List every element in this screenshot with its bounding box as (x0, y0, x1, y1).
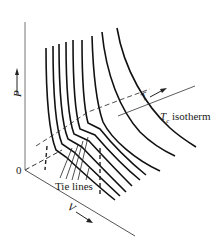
t-axis-dashed (25, 150, 62, 170)
isotherm-9 (117, 28, 196, 147)
tc-rest: isotherm (169, 110, 210, 122)
tie-pointer-1 (60, 148, 72, 178)
tc-isotherm-label: Tc isotherm (160, 111, 210, 125)
pvt-diagram: P V T 0 Tc isotherm Tie lines (0, 0, 212, 243)
origin-label: 0 (16, 165, 22, 176)
tie-lines-label: Tie lines (55, 181, 93, 192)
p-arrow-head (15, 68, 19, 75)
p-axis-label: P (12, 90, 23, 97)
t-arrow-head (160, 88, 167, 93)
